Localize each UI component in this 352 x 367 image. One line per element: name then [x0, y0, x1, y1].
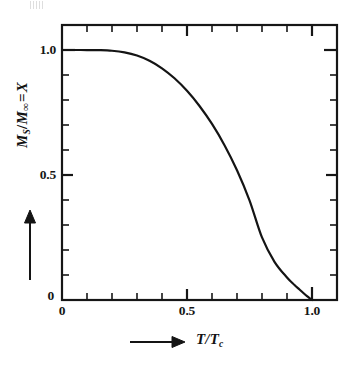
y-caption-equals: = [14, 92, 30, 103]
x-axis-caption: T/Tc [196, 331, 224, 348]
y-caption-m1-subscript: S [22, 129, 32, 134]
up-arrow-icon [25, 210, 36, 280]
y-tick-label-1: 1.0 [18, 42, 56, 58]
y-caption-m2: M [14, 111, 30, 125]
y-tick-label-0-5: 0.5 [18, 167, 56, 183]
figure-container: 1.0 0.5 0 0 0.5 1.0 T/Tc MS/M∞=X [0, 0, 352, 367]
y-caption-variable: X [14, 82, 30, 92]
x-caption-text: T/T [196, 331, 219, 347]
x-tick-label-0-5: 0.5 [169, 303, 205, 319]
x-tick-label-1: 1.0 [294, 303, 330, 319]
y-caption-m1: M [14, 134, 30, 148]
y-tick-label-0: 0 [18, 288, 54, 304]
y-caption-m2-subscript: ∞ [19, 103, 31, 111]
x-caption-subscript: c [219, 339, 223, 349]
x-tick-label-0: 0 [52, 303, 72, 319]
plot-frame [62, 25, 337, 300]
right-arrow-icon [130, 337, 185, 348]
y-axis-caption: MS/M∞=X [14, 82, 31, 148]
